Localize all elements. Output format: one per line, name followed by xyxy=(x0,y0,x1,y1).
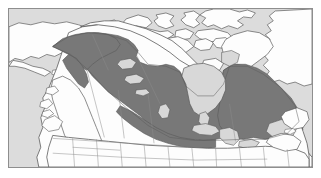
map-frame xyxy=(8,8,313,168)
map-figure xyxy=(0,0,321,178)
map-canvas xyxy=(9,9,312,167)
